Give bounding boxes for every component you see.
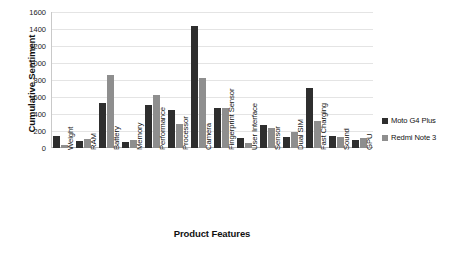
y-axis-tick-label: 1400 [16,25,46,34]
x-axis-category-label: Sound [342,128,351,150]
y-axis-tick-label: 400 [16,110,46,119]
legend-label: Redmi Note 3 [391,133,436,142]
x-axis-category-label: RAM [89,133,98,150]
legend-item[interactable]: Moto G4 Plus [382,116,452,125]
bar [99,103,106,148]
chart-legend: Moto G4 PlusRedmi Note 3 [382,116,452,150]
x-axis-category-label: Battery [112,126,121,150]
x-axis-category-label: Fast Charging [319,103,328,150]
x-axis-category-label: Fingerprint Sensor [227,89,236,150]
x-axis-category-label: Performance [158,107,167,150]
x-axis-category-label: Dual SIM [296,119,305,150]
x-axis-category-labels: WeightRAMBatteryMemoryPerformanceProcess… [51,150,373,212]
y-axis-tick-label: 200 [16,127,46,136]
x-axis-title: Product Features [51,228,373,239]
bar-chart: Cumulative Sentiment 0200400600800100012… [0,0,453,270]
y-axis-tick-label: 0 [16,144,46,153]
bar [53,136,60,148]
bar [329,136,336,148]
bar [122,142,129,148]
legend-swatch-icon [382,135,388,141]
bar [214,108,221,148]
x-axis-category-label: User Interface [250,103,259,150]
bar-group [74,12,97,148]
bar [191,26,198,148]
bar [145,105,152,148]
bar [76,141,83,148]
legend-label: Moto G4 Plus [391,116,436,125]
legend-item[interactable]: Redmi Note 3 [382,133,452,142]
bar [352,140,359,148]
y-axis-tick-label: 1200 [16,42,46,51]
bar [306,88,313,148]
x-axis-category-label: Sensor [273,126,282,150]
y-axis-tick-label: 800 [16,76,46,85]
bar [237,138,244,148]
x-axis-category-label: Weight [66,127,75,150]
bar-group [350,12,373,148]
y-axis-tick-label: 1000 [16,59,46,68]
legend-swatch-icon [382,118,388,124]
bar [168,110,175,148]
y-axis-tick-label: 1600 [16,8,46,17]
x-axis-category-label: Memory [135,123,144,150]
x-axis-category-label: GPU [365,134,374,150]
x-axis-category-label: Processor [181,116,190,150]
x-axis-category-label: Camera [204,123,213,150]
bar [260,125,267,148]
bar [283,137,290,148]
y-axis-tick-label: 600 [16,93,46,102]
